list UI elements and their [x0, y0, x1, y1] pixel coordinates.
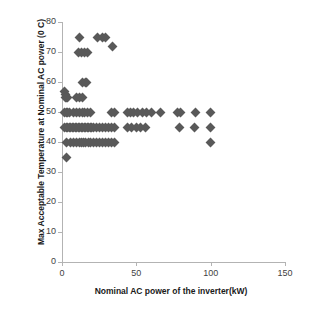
x-axis-title: Nominal AC power of the inverter(kW) [40, 286, 302, 296]
x-tick-label: 0 [47, 268, 77, 278]
x-tick-mark [211, 262, 212, 266]
y-tick-mark [58, 52, 62, 53]
y-tick-mark [58, 22, 62, 23]
y-tick-label: 0 [36, 256, 56, 266]
x-tick-mark [62, 262, 63, 266]
y-axis-title: Max Acceptable Temperature at Nominal AC… [35, 7, 47, 257]
y-tick-mark [58, 172, 62, 173]
x-tick-label: 150 [270, 268, 300, 278]
y-tick-mark [58, 202, 62, 203]
x-tick-mark [285, 262, 286, 266]
scatter-chart: 050100150 01020304050607080 Nominal AC p… [0, 0, 311, 310]
y-tick-mark [58, 262, 62, 263]
x-tick-label: 50 [121, 268, 151, 278]
y-tick-mark [58, 232, 62, 233]
x-axis-line [62, 262, 285, 263]
x-tick-mark [136, 262, 137, 266]
x-tick-label: 100 [196, 268, 226, 278]
y-tick-mark [58, 82, 62, 83]
